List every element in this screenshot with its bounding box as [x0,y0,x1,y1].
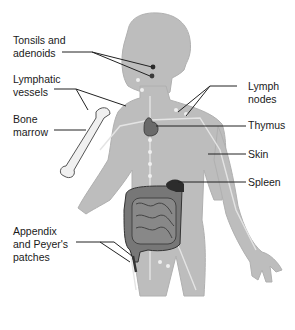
label-lymph-nodes: Lymph nodes [248,80,279,106]
bone-humerus [60,108,110,178]
label-lymphatic-vessels: Lymphatic vessels [13,73,60,99]
lymphatic-system-diagram: Tonsils and adenoids Lymphatic vessels B… [0,0,295,330]
adenoid-organ [150,74,155,79]
label-tonsils-and-adenoids: Tonsils and adenoids [13,34,66,60]
small-intestine [132,198,176,244]
label-skin: Skin [248,148,268,161]
label-appendix-and-peyers-patches: Appendix and Peyer's patches [13,225,68,264]
label-spleen: Spleen [248,176,281,189]
label-thymus: Thymus [248,119,285,132]
label-bone-marrow: Bone marrow [13,113,48,139]
